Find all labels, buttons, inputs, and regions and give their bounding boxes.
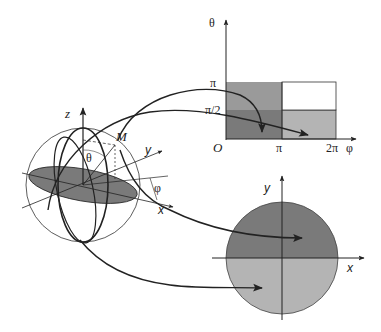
- x-tick-2pi: 2π: [326, 141, 338, 155]
- theta-axis-label: θ: [209, 16, 215, 30]
- cell-upper-right: [282, 82, 336, 110]
- disk-y-label: y: [263, 181, 271, 195]
- phi-angle-label: φ: [154, 181, 161, 195]
- rectangle-plot: θ φ O π π/2 π 2π: [205, 16, 356, 155]
- sphere-y-label: y: [144, 143, 152, 157]
- z-axis-label: z: [64, 106, 70, 121]
- origin-label: O: [213, 140, 223, 155]
- disk-plot: y x: [212, 176, 364, 320]
- cell-lower-left: [226, 110, 282, 139]
- cell-lower-right: [282, 110, 336, 139]
- diagram-canvas: θ φ O π π/2 π 2π y x z M θ: [0, 0, 381, 332]
- x-tick-pi: π: [276, 141, 282, 155]
- phi-axis-label: φ: [346, 141, 353, 155]
- sphere: z M θ y φ x: [22, 106, 173, 247]
- y-tick-pi-half: π/2: [205, 103, 220, 117]
- y-tick-pi: π: [210, 76, 216, 90]
- theta-angle-label: θ: [86, 151, 92, 165]
- disk-x-label: x: [346, 261, 354, 275]
